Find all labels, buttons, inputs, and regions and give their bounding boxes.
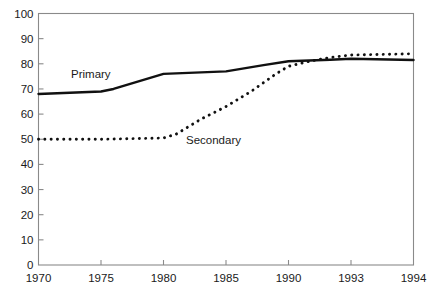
series-label-secondary: Secondary bbox=[186, 134, 241, 146]
x-axis-ticks bbox=[101, 260, 351, 265]
x-tick-label: 1970 bbox=[26, 272, 52, 284]
series-line-secondary bbox=[39, 54, 414, 140]
y-tick-label: 60 bbox=[21, 108, 34, 120]
x-tick-label: 1985 bbox=[213, 272, 239, 284]
x-tick-label: 1994 bbox=[401, 272, 427, 284]
y-tick-label: 30 bbox=[21, 184, 34, 196]
x-tick-label: 1975 bbox=[88, 272, 114, 284]
y-tick-label: 70 bbox=[21, 83, 34, 95]
series-annotations: PrimarySecondary bbox=[71, 68, 241, 147]
y-tick-label: 50 bbox=[21, 133, 34, 145]
series-label-primary: Primary bbox=[71, 68, 111, 80]
y-tick-label: 0 bbox=[27, 259, 33, 271]
y-tick-label: 10 bbox=[21, 234, 34, 246]
x-tick-label: 1980 bbox=[151, 272, 177, 284]
y-tick-label: 20 bbox=[21, 209, 34, 221]
x-tick-label: 1993 bbox=[338, 272, 364, 284]
y-tick-label: 100 bbox=[14, 8, 33, 20]
y-tick-label: 90 bbox=[21, 33, 34, 45]
line-chart: 0102030405060708090100 19701975198019851… bbox=[0, 0, 429, 303]
y-tick-label: 40 bbox=[21, 158, 34, 170]
x-tick-label: 1990 bbox=[276, 272, 302, 284]
x-axis-tick-labels: 1970197519801985199019931994 bbox=[26, 272, 427, 284]
chart-container: 0102030405060708090100 19701975198019851… bbox=[0, 0, 429, 303]
y-tick-label: 80 bbox=[21, 58, 34, 70]
y-axis-tick-labels: 0102030405060708090100 bbox=[14, 8, 33, 272]
